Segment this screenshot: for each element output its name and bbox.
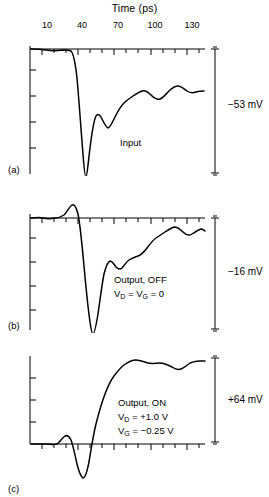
panel-b-label: (b) (8, 320, 20, 331)
panel-c-y-ticks (30, 378, 36, 422)
panel-b-amplitude-label: −16 mV (228, 266, 263, 277)
oscilloscope-figure: Time (ps) 10 40 70 100 130 (0, 0, 269, 497)
panel-b-y-ticks (30, 238, 36, 310)
panel-a-plot (0, 44, 269, 176)
panel-b-amplitude-bar (211, 216, 219, 331)
panel-a-label: (a) (8, 164, 20, 175)
panel-c-amplitude-label: +64 mV (228, 394, 263, 405)
panel-c-vg-value: = −0.25 V (130, 425, 174, 436)
x-tick-label-70: 70 (113, 20, 123, 30)
panel-b-plot (0, 196, 269, 333)
x-tick-label-130: 130 (184, 20, 199, 30)
panel-b-annotation-line-2: VD = VG = 0 (114, 287, 164, 304)
panel-a-y-ticks (30, 70, 36, 148)
panel-a-annotation: Input (120, 136, 141, 150)
panel-c-annotation-line-1: Output, ON (118, 396, 166, 410)
panel-c-label: (c) (8, 483, 19, 494)
panel-c-vd-value: = +1.0 V (129, 411, 168, 422)
panel-b: Output, OFF VD = VG = 0 −16 mV (b) (0, 196, 269, 331)
panel-c: Output, ON VD = +1.0 V VG = −0.25 V +64 … (0, 352, 269, 497)
x-tick-label-10: 10 (42, 20, 52, 30)
panel-a-amplitude-bar (211, 47, 219, 175)
panel-b-eq-post: = 0 (148, 288, 164, 299)
panel-a-amplitude-label: −53 mV (228, 99, 263, 110)
panel-c-x-ticks (42, 444, 199, 450)
panel-b-waveform (31, 205, 205, 333)
x-tick-label-100: 100 (147, 20, 162, 30)
panel-a: Input −53 mV (a) (0, 44, 269, 174)
panel-c-amplitude-bar (211, 356, 219, 444)
x-axis-title: Time (ps) (0, 2, 269, 14)
x-axis-tick-labels: 10 40 70 100 130 (0, 20, 269, 33)
x-tick-label-40: 40 (77, 20, 87, 30)
panel-a-waveform (31, 49, 204, 176)
panel-b-eq-mid: = V (125, 288, 142, 299)
panel-c-annotation-line-3: VG = −0.25 V (118, 424, 174, 441)
panel-b-annotation-line-1: Output, OFF (114, 273, 167, 287)
panel-b-x-ticks (42, 218, 199, 224)
